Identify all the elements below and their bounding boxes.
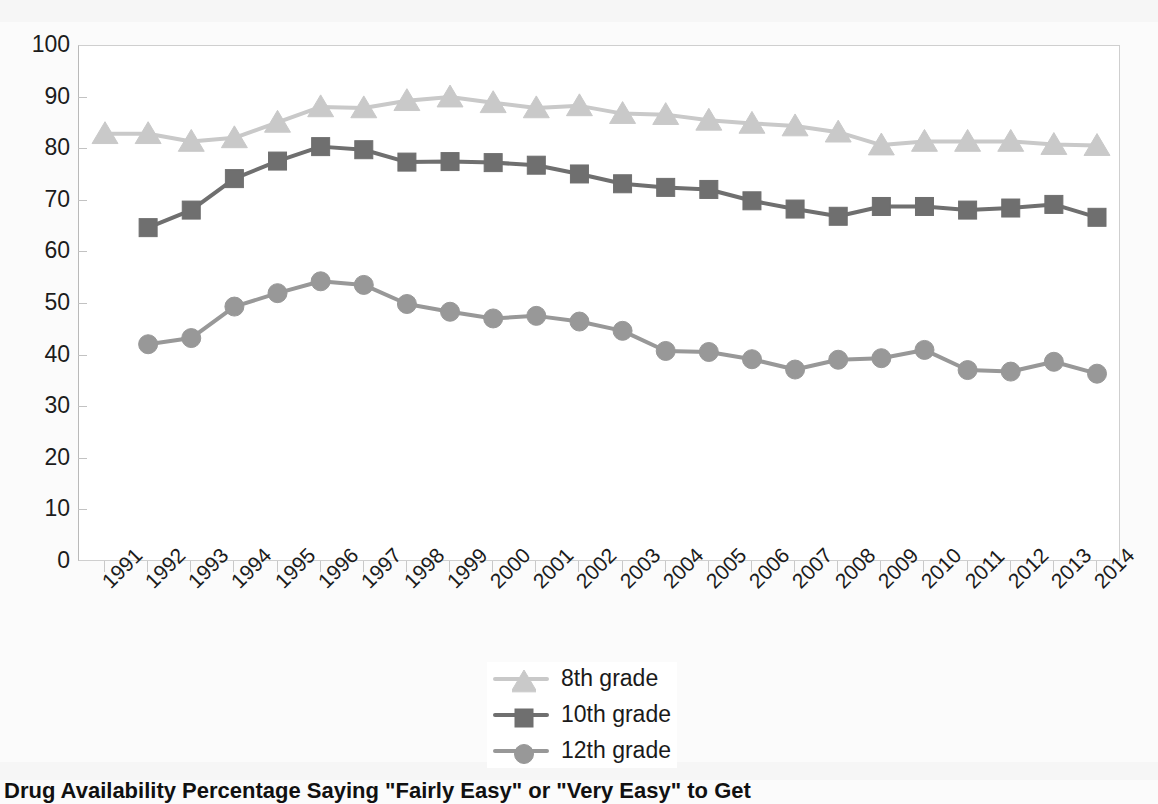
data-point-15 <box>786 200 804 218</box>
circle-marker <box>515 745 534 764</box>
y-tick-label-70: 70 <box>8 188 70 211</box>
data-point-18 <box>915 197 933 215</box>
series-line <box>105 97 1097 146</box>
y-tick-mark-10 <box>78 509 87 510</box>
legend-item-12th-grade[interactable]: 12th grade <box>493 736 671 764</box>
data-point-18 <box>915 340 934 359</box>
y-tick-mark-30 <box>78 406 87 407</box>
data-point-16 <box>829 207 847 225</box>
data-point-10 <box>570 312 589 331</box>
data-point-6 <box>398 153 416 171</box>
data-point-5 <box>355 141 373 159</box>
legend-item-10th-grade[interactable]: 10th grade <box>493 700 671 728</box>
data-point-7 <box>441 302 460 321</box>
data-point-19 <box>958 361 977 380</box>
legend-label: 12th grade <box>561 739 671 762</box>
circle-marker <box>512 742 536 766</box>
data-point-20 <box>1001 362 1020 381</box>
triangle-marker <box>512 670 536 692</box>
data-point-1 <box>182 329 201 348</box>
data-point-14 <box>743 192 761 210</box>
data-point-13 <box>700 180 718 198</box>
y-tick-label-30: 30 <box>8 394 70 417</box>
series-8th-grade <box>92 85 1110 155</box>
data-point-12 <box>657 178 675 196</box>
y-tick-mark-80 <box>78 148 87 149</box>
data-point-1 <box>182 201 200 219</box>
legend-item-8th-grade[interactable]: 8th grade <box>493 664 671 692</box>
data-point-6 <box>397 295 416 314</box>
data-point-20 <box>1002 199 1020 217</box>
data-point-22 <box>1088 364 1107 383</box>
legend-key <box>493 702 549 726</box>
data-point-3 <box>269 152 287 170</box>
data-point-13 <box>699 342 718 361</box>
y-tick-mark-20 <box>78 458 87 459</box>
legend-label: 8th grade <box>561 667 658 690</box>
data-point-17 <box>872 349 891 368</box>
y-tick-mark-50 <box>78 303 87 304</box>
y-axis: 1009080706050403020100 <box>0 45 70 561</box>
y-tick-label-40: 40 <box>8 343 70 366</box>
figure-caption: Drug Availability Percentage Saying "Fai… <box>4 778 1104 804</box>
y-tick-label-90: 90 <box>8 85 70 108</box>
data-point-4 <box>311 272 330 291</box>
y-tick-mark-40 <box>78 355 87 356</box>
data-point-11 <box>614 175 632 193</box>
data-point-9 <box>527 306 546 325</box>
data-point-14 <box>742 350 761 369</box>
series-12th-grade <box>139 272 1107 383</box>
data-point-0 <box>139 335 158 354</box>
y-tick-label-100: 100 <box>8 33 70 56</box>
legend-key <box>493 738 549 762</box>
data-point-3 <box>268 284 287 303</box>
data-point-15 <box>786 360 805 379</box>
chart-legend: 8th grade10th grade12th grade <box>487 662 677 768</box>
data-point-8 <box>484 309 503 328</box>
series-canvas <box>79 46 1121 562</box>
data-point-16 <box>829 350 848 369</box>
data-point-21 <box>1044 352 1063 371</box>
legend-key <box>493 666 549 690</box>
data-point-12 <box>656 341 675 360</box>
data-point-5 <box>354 275 373 294</box>
y-tick-label-60: 60 <box>8 239 70 262</box>
data-point-8 <box>484 154 502 172</box>
data-point-11 <box>613 321 632 340</box>
square-marker <box>512 706 536 730</box>
data-point-4 <box>265 110 291 132</box>
y-tick-mark-70 <box>78 200 87 201</box>
data-point-2 <box>225 170 243 188</box>
data-point-17 <box>872 197 890 215</box>
data-point-2 <box>225 297 244 316</box>
legend-label: 10th grade <box>561 703 671 726</box>
y-tick-label-10: 10 <box>8 497 70 520</box>
data-point-22 <box>1088 208 1106 226</box>
data-point-21 <box>1045 195 1063 213</box>
y-tick-label-0: 0 <box>8 549 70 572</box>
series-10th-grade <box>139 138 1106 237</box>
data-point-4 <box>312 138 330 156</box>
y-tick-label-20: 20 <box>8 446 70 469</box>
y-tick-label-80: 80 <box>8 136 70 159</box>
y-tick-mark-60 <box>78 251 87 252</box>
scan-artifact-top <box>0 0 1158 22</box>
data-point-10 <box>570 165 588 183</box>
data-point-9 <box>527 156 545 174</box>
plot-area <box>78 45 1120 561</box>
data-point-0 <box>139 219 157 237</box>
data-point-19 <box>959 201 977 219</box>
triangle-marker <box>512 670 536 694</box>
data-point-7 <box>441 153 459 171</box>
y-tick-label-50: 50 <box>8 291 70 314</box>
y-tick-mark-90 <box>78 97 87 98</box>
square-marker <box>515 709 533 727</box>
